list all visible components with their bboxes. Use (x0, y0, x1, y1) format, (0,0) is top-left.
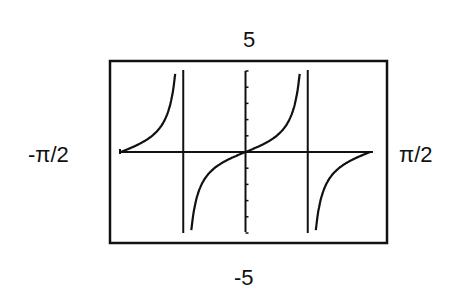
graph-plot (0, 0, 455, 299)
